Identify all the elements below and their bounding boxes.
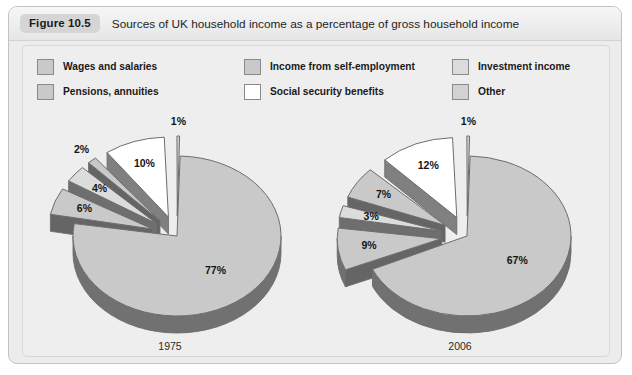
legend-item-self-employment: Income from self-employment xyxy=(244,59,452,75)
figure-caption: Sources of UK household income as a perc… xyxy=(112,17,519,31)
legend-label-social-security: Social security benefits xyxy=(270,86,384,97)
pie-charts-container: 1%10%2%4%6%77% 1975 1%12%7%3%9%67% 2006 xyxy=(23,108,609,356)
figure-title-bar: Figure 10.5 Sources of UK household inco… xyxy=(9,7,621,41)
legend-item-investment: Investment income xyxy=(452,59,570,75)
legend-label-other: Other xyxy=(478,86,505,97)
slice-label: 4% xyxy=(92,182,108,194)
pie-chart-2006: 1%12%7%3%9%67% 2006 xyxy=(315,108,605,356)
slice-label: 6% xyxy=(77,202,93,214)
pie-chart-1975: 1%10%2%4%6%77% 1975 xyxy=(25,108,315,356)
slice-label: 10% xyxy=(134,157,156,169)
pie-chart-2006-graphic: 1%12%7%3%9%67% xyxy=(315,108,605,356)
slice-label: 3% xyxy=(364,210,380,222)
legend-swatch-pensions-icon xyxy=(37,84,54,100)
legend-item-pensions: Pensions, annuities xyxy=(37,84,244,100)
legend-item-social-security: Social security benefits xyxy=(244,84,452,100)
figure-number-badge: Figure 10.5 xyxy=(20,14,100,33)
slice-label: 1% xyxy=(461,115,477,127)
legend-item-other: Other xyxy=(452,84,505,100)
slice-label: 12% xyxy=(418,159,440,171)
year-label-2006: 2006 xyxy=(315,340,605,352)
legend-label-pensions: Pensions, annuities xyxy=(63,86,159,97)
legend-swatch-other-icon xyxy=(452,84,469,100)
figure-card: Figure 10.5 Sources of UK household inco… xyxy=(8,6,622,364)
legend-label-self-employment: Income from self-employment xyxy=(270,61,415,72)
slice-label: 77% xyxy=(205,264,227,276)
legend-label-investment: Investment income xyxy=(478,61,570,72)
year-label-1975: 1975 xyxy=(25,340,315,352)
chart-panel: Wages and salaries Income from self-empl… xyxy=(22,45,610,357)
pie-chart-1975-graphic: 1%10%2%4%6%77% xyxy=(25,108,315,356)
legend-swatch-social-security-icon xyxy=(244,84,261,100)
slice-label: 67% xyxy=(507,254,529,266)
slice-label: 9% xyxy=(362,239,378,251)
legend-item-wages: Wages and salaries xyxy=(37,59,244,75)
legend-row-2: Pensions, annuities Social security bene… xyxy=(37,79,595,104)
slice-label: 2% xyxy=(74,143,90,155)
legend-swatch-self-employment-icon xyxy=(244,59,261,75)
chart-legend: Wages and salaries Income from self-empl… xyxy=(23,54,609,104)
slice-label: 7% xyxy=(376,188,392,200)
slice-label: 1% xyxy=(171,115,187,127)
legend-label-wages: Wages and salaries xyxy=(63,61,157,72)
legend-row-1: Wages and salaries Income from self-empl… xyxy=(37,54,595,79)
legend-swatch-investment-icon xyxy=(452,59,469,75)
legend-swatch-wages-icon xyxy=(37,59,54,75)
